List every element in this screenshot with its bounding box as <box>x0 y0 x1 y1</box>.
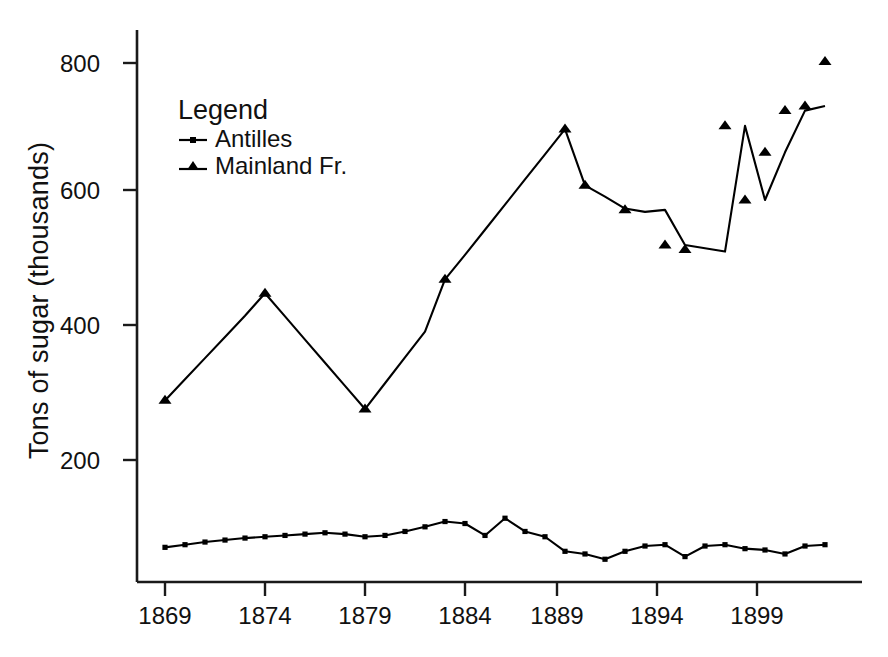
data-point-marker <box>222 537 227 542</box>
data-point-marker <box>262 534 267 539</box>
sugar-production-line-chart: Tons of sugar (thousands) 800 600 400 20… <box>0 0 888 657</box>
x-tick-label-1874: 1874 <box>220 602 310 630</box>
data-point-marker <box>282 533 287 538</box>
data-point-marker <box>739 194 752 203</box>
data-point-marker <box>422 524 427 529</box>
legend-key-square-icon <box>178 131 208 149</box>
legend-item-mainland-fr: Mainland Fr. <box>178 153 408 180</box>
y-tick-label-200: 200 <box>10 447 100 475</box>
data-point-marker <box>822 542 827 547</box>
x-tick-label-1899: 1899 <box>712 602 802 630</box>
data-point-marker <box>762 547 767 552</box>
x-axis-ticks <box>165 582 757 596</box>
data-point-marker <box>782 551 787 556</box>
data-point-marker <box>242 535 247 540</box>
data-point-marker <box>182 542 187 547</box>
data-point-marker <box>702 543 707 548</box>
data-point-marker <box>402 529 407 534</box>
x-tick-label-1894: 1894 <box>612 602 702 630</box>
data-point-marker <box>759 147 772 156</box>
x-tick-label-1869: 1869 <box>120 602 210 630</box>
legend-label-antilles: Antilles <box>215 126 292 153</box>
data-point-marker <box>542 534 547 539</box>
y-tick-label-800: 800 <box>10 50 100 78</box>
data-point-marker <box>559 124 572 133</box>
data-point-marker <box>382 533 387 538</box>
data-point-marker <box>719 120 732 129</box>
y-tick-label-400: 400 <box>10 312 100 340</box>
legend-title: Legend <box>178 96 408 124</box>
data-point-marker <box>522 529 527 534</box>
data-point-marker <box>302 532 307 537</box>
data-point-marker <box>799 100 812 109</box>
data-point-marker <box>462 521 467 526</box>
data-point-marker <box>362 534 367 539</box>
y-tick-label-600: 600 <box>10 177 100 205</box>
data-point-marker <box>442 519 447 524</box>
data-point-marker <box>602 557 607 562</box>
legend: Legend Antilles Mainland Fr. <box>178 96 408 180</box>
data-point-marker <box>562 549 567 554</box>
legend-key-triangle-icon <box>178 158 208 176</box>
data-point-marker <box>502 516 507 521</box>
legend-item-antilles: Antilles <box>178 126 408 153</box>
x-tick-label-1879: 1879 <box>320 602 410 630</box>
data-point-marker <box>202 539 207 544</box>
series-antilles <box>162 516 827 562</box>
legend-label-mainland-fr: Mainland Fr. <box>215 153 347 180</box>
y-axis-ticks <box>123 63 137 460</box>
data-point-marker <box>722 542 727 547</box>
data-point-marker <box>162 545 167 550</box>
data-point-marker <box>482 533 487 538</box>
data-point-marker <box>682 554 687 559</box>
data-point-marker <box>322 530 327 535</box>
data-point-marker <box>342 532 347 537</box>
data-point-marker <box>259 288 272 297</box>
data-point-marker <box>642 543 647 548</box>
data-point-marker <box>582 551 587 556</box>
data-point-marker <box>819 56 832 65</box>
data-point-marker <box>742 546 747 551</box>
data-point-marker <box>662 542 667 547</box>
plot-area <box>0 0 888 657</box>
data-point-marker <box>659 239 672 248</box>
data-point-marker <box>779 105 792 114</box>
x-tick-label-1889: 1889 <box>512 602 602 630</box>
data-point-marker <box>622 549 627 554</box>
data-point-marker <box>579 180 592 189</box>
data-point-marker <box>802 543 807 548</box>
x-tick-label-1884: 1884 <box>420 602 510 630</box>
